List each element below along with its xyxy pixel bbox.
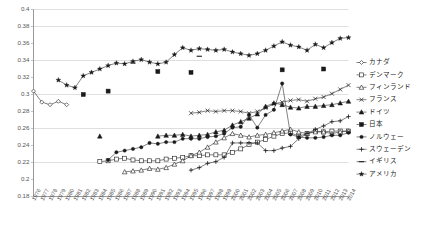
data-point-marker [205,161,209,165]
series-line [58,38,348,88]
legend-item-アメリカ[interactable]: アメリカ [357,170,398,177]
legend-label: アメリカ [369,170,397,177]
series-line [158,101,349,136]
legend-label: ドイツ [369,108,390,115]
legend-item-スウェーデン[interactable]: スウェーデン [357,144,412,153]
data-point-marker [280,146,284,150]
data-point-marker [338,36,343,41]
data-point-marker [305,48,310,53]
data-point-marker [289,133,292,136]
legend-label: ノルウェー [369,133,404,140]
data-point-marker [230,49,235,54]
data-point-marker [156,70,160,74]
y-tick-label: 0.24 [17,141,30,148]
data-point-marker [222,47,227,52]
data-point-marker [214,153,218,157]
data-point-marker [205,145,210,149]
data-point-marker [360,135,363,138]
data-point-marker [48,103,52,107]
data-point-marker [322,135,325,138]
series-カナダ [32,89,69,107]
data-point-marker [222,136,227,140]
y-tick-label: 0.3 [21,90,30,97]
data-point-marker [106,89,110,93]
legend-item-カナダ[interactable]: カナダ [357,57,391,66]
legend-label: デンマーク [369,70,404,79]
data-point-marker [106,63,111,68]
legend-item-イギリス[interactable]: イギリス [357,157,398,164]
data-point-marker [197,150,202,154]
data-point-marker [164,157,168,161]
legend-label: フランス [369,95,397,102]
gridlines [34,27,349,163]
legend-label: 日本 [369,119,383,128]
series-line [108,83,348,160]
legend-label: カナダ [369,57,390,66]
data-point-marker [123,149,126,152]
data-point-marker [338,87,342,91]
legend-item-ノルウェー[interactable]: ノルウェー [357,133,405,140]
data-point-marker [329,40,334,45]
data-point-marker [114,157,118,161]
legend-item-フィンランド[interactable]: フィンランド [357,83,412,90]
legend-item-フランス[interactable]: フランス [357,95,398,102]
data-point-marker [346,99,351,103]
legend-item-日本[interactable]: 日本 [357,119,384,128]
data-point-marker [205,47,210,52]
series-アメリカ [56,35,351,90]
data-point-marker [40,100,44,104]
data-point-marker [238,119,243,123]
data-point-marker [230,150,234,154]
legend-label: スウェーデン [369,144,411,153]
data-point-marker [213,48,218,53]
data-point-marker [81,93,85,97]
data-point-marker [56,99,60,103]
data-point-marker [360,123,364,127]
data-point-marker [264,113,267,116]
data-point-marker [339,134,342,137]
data-point-marker [239,147,243,151]
data-point-marker [272,148,276,152]
data-point-marker [114,60,119,65]
data-point-marker [156,142,159,145]
data-point-marker [122,61,127,66]
legend-item-ドイツ[interactable]: ドイツ [357,108,391,115]
data-point-marker [222,132,225,135]
data-point-marker [280,82,283,85]
series-line [191,85,349,113]
data-point-marker [359,172,364,177]
data-point-marker [288,127,293,131]
data-point-marker [322,67,326,71]
data-point-marker [330,120,334,124]
data-point-marker [230,131,235,135]
data-point-marker [115,151,118,154]
data-point-marker [156,159,160,163]
data-point-marker [330,134,333,137]
data-point-marker [280,39,285,44]
data-point-marker [155,61,160,66]
data-point-marker [239,125,242,128]
y-tick-label: 0.32 [17,73,30,80]
data-point-marker [263,48,268,53]
data-point-marker [172,156,176,160]
data-point-marker [346,114,350,118]
data-point-marker [164,140,167,143]
y-tick-label: 0.2 [21,175,30,182]
data-point-marker [89,70,94,75]
data-point-marker [98,160,102,164]
data-point-marker [347,83,351,87]
x-axis: 1976197719781979198019811982198319841985… [31,188,357,202]
data-point-marker [180,132,185,136]
data-point-marker [106,158,109,161]
data-point-marker [139,159,143,163]
data-point-marker [231,126,234,129]
y-tick-label: 0.22 [17,158,30,165]
legend-item-デンマーク[interactable]: デンマーク [357,70,405,79]
data-point-marker [214,140,219,144]
y-tick-label: 0.4 [21,5,30,12]
data-point-marker [239,141,243,145]
data-point-marker [288,105,293,109]
data-point-marker [189,137,192,140]
data-point-marker [197,46,202,51]
data-point-marker [255,51,260,56]
